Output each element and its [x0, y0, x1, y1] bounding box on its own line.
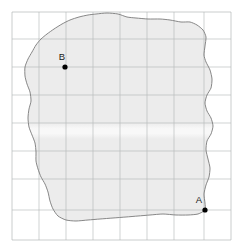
point-a-dot[interactable] — [202, 207, 207, 212]
region-highlight-group — [0, 123, 244, 139]
light-band — [0, 123, 244, 139]
region-fill — [25, 13, 213, 221]
point-a-label: A — [196, 194, 203, 205]
point-b-dot[interactable] — [62, 64, 67, 69]
figure-container: e diagram — map AB — [0, 0, 244, 247]
point-b-label: B — [59, 51, 65, 62]
region-figure: AB — [0, 0, 244, 247]
